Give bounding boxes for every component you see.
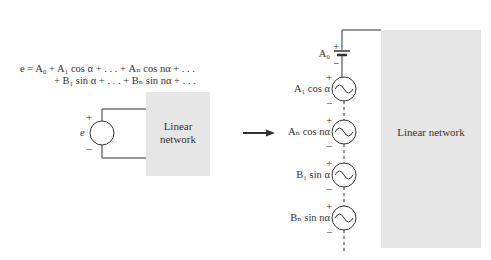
sine-icon-b1: [335, 171, 353, 179]
battery-minus: −: [333, 58, 339, 69]
battery-label: A₀: [300, 48, 330, 60]
ac3-plus: +: [326, 158, 332, 169]
right-top-wire: [342, 30, 381, 50]
ac-source-an-label: Aₙ cos nα: [250, 126, 330, 138]
ac-source-a1-label: A₁ cos α: [250, 83, 330, 95]
ac2-minus: −: [326, 141, 332, 152]
left-bottom-wire: [102, 145, 146, 158]
ac1-plus: +: [326, 72, 332, 83]
ac1-minus: −: [326, 98, 332, 109]
battery-plus: +: [333, 41, 339, 52]
sine-icon-bn: [335, 214, 353, 222]
left-source-label: e: [80, 127, 85, 139]
sine-icon-an: [335, 128, 353, 136]
left-source-circle: [90, 121, 114, 145]
ac3-minus: −: [326, 184, 332, 195]
ac-source-bn-label: Bₙ sin nα: [250, 212, 330, 224]
sine-icon-a1: [335, 85, 353, 93]
left-source-plus: +: [86, 112, 92, 123]
ac4-plus: +: [326, 201, 332, 212]
ac-source-b1-label: B₁ sin α: [250, 169, 330, 181]
circuit-drawing: [0, 0, 491, 260]
left-source-minus: −: [86, 144, 92, 155]
ac4-minus: −: [326, 227, 332, 238]
ac2-plus: +: [326, 115, 332, 126]
left-top-wire: [102, 109, 146, 121]
